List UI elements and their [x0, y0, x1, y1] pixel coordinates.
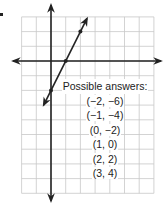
answer-item-text: (−1, −4) — [86, 109, 125, 121]
answer-item: (1, 0) — [60, 137, 150, 152]
answer-item: (−1, −4) — [60, 108, 150, 123]
possible-answers-block: Possible answers: (−2, −6) (−1, −4) (0, … — [60, 79, 150, 181]
plotted-point — [49, 88, 53, 92]
answer-item: (2, 2) — [60, 152, 150, 167]
answer-item-text: (0, −2) — [89, 124, 122, 136]
answer-item-text: (2, 2) — [92, 153, 119, 165]
answer-item: (3, 4) — [60, 166, 150, 181]
answers-heading: Possible answers: — [62, 79, 149, 94]
plotted-point — [64, 59, 68, 63]
answer-item-text: (1, 0) — [92, 138, 119, 150]
answer-item-text: (3, 4) — [92, 167, 119, 179]
answer-item: (−2, −6) — [60, 94, 150, 109]
coordinate-graph-figure: Possible answers: (−2, −6) (−1, −4) (0, … — [0, 0, 165, 206]
plotted-point — [78, 30, 82, 34]
answer-item-text: (−2, −6) — [86, 95, 125, 107]
answer-item: (0, −2) — [60, 123, 150, 138]
